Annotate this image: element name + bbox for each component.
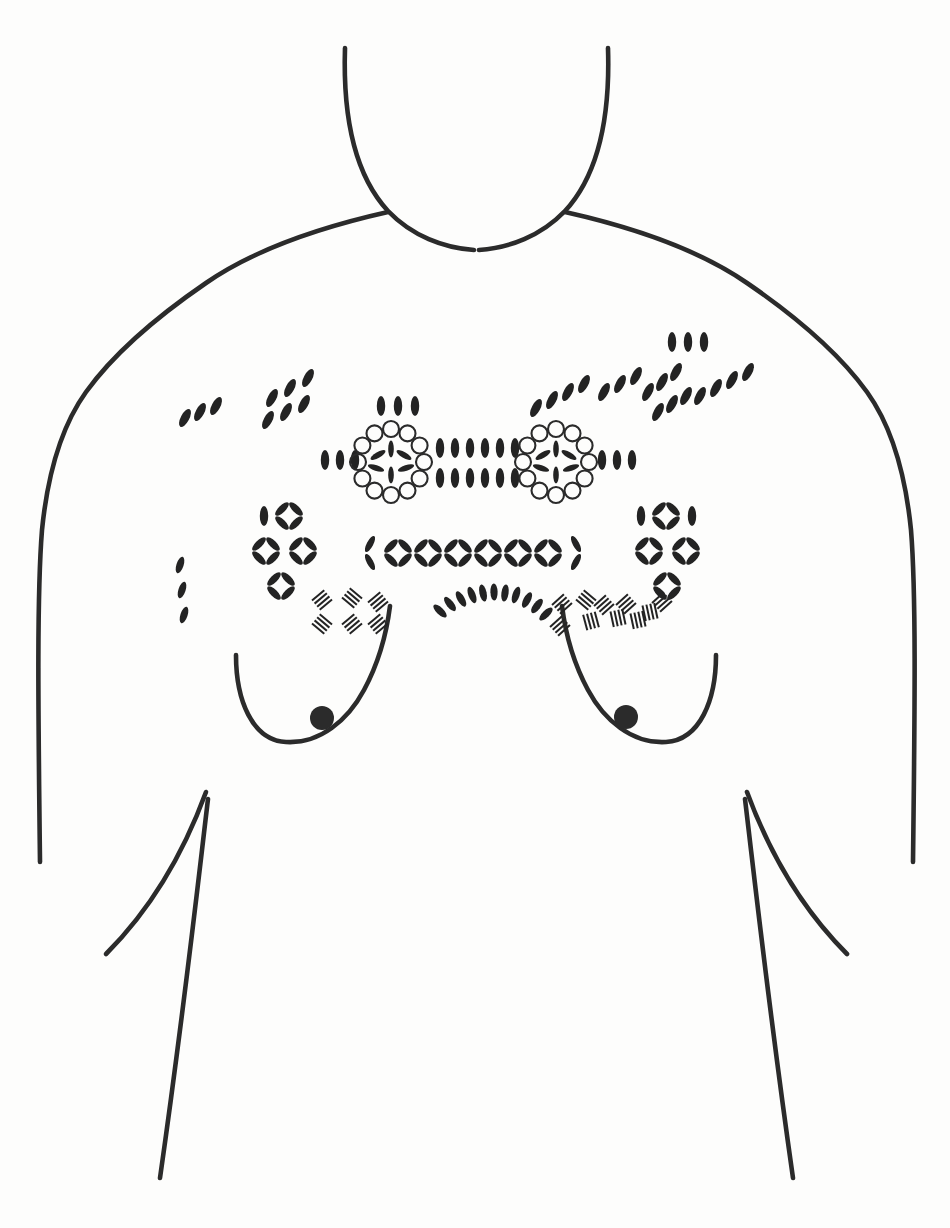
dash-group-left-of-rosette bbox=[321, 450, 359, 470]
torso-tattoo-diagram: Female torso tattoo pattern diagram Line… bbox=[0, 0, 950, 1228]
dash-group-right-shoulder-top bbox=[668, 332, 708, 352]
dash-group-sternum-top bbox=[377, 396, 419, 416]
background bbox=[0, 0, 950, 1228]
nipple-left bbox=[310, 706, 334, 730]
figure-canvas: Female torso tattoo pattern diagram Line… bbox=[0, 0, 950, 1228]
dash-group-right-of-rosette bbox=[598, 450, 636, 470]
nipple-right bbox=[614, 705, 638, 729]
